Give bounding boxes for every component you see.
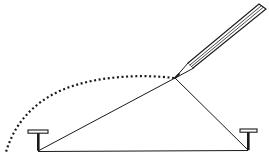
- dotted-traced-curve: [6, 76, 174, 152]
- pencil-icon: [175, 4, 266, 78]
- right-pin-icon: [240, 129, 257, 150]
- string-segment-right: [175, 78, 248, 150]
- string-segment-left: [38, 78, 175, 151]
- string-segment-base: [38, 151, 248, 152]
- string-loop: [38, 78, 248, 152]
- ellipse-construction-diagram: [0, 0, 269, 159]
